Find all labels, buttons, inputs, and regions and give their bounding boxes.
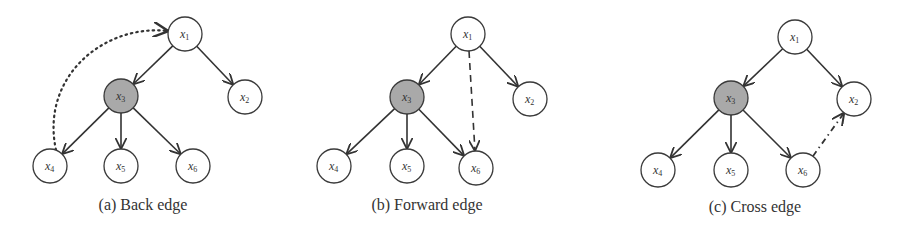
tree-edge-x3-x6 xyxy=(743,110,790,157)
tree-edge-x1-x2 xyxy=(807,49,842,86)
tree-edge-x1-x3 xyxy=(134,46,173,84)
node-x3: x3 xyxy=(104,79,138,113)
node-x1: x1 xyxy=(778,20,812,54)
node-x1: x1 xyxy=(168,17,202,51)
tree-edge-x3-x4 xyxy=(671,110,719,157)
node-x5: x5 xyxy=(104,149,138,183)
tree-edge-x3-x4 xyxy=(347,109,395,154)
tree-edge-x1-x2 xyxy=(197,46,233,84)
node-x1: x1 xyxy=(451,17,485,51)
node-x2: x2 xyxy=(513,82,547,116)
node-x6: x6 xyxy=(176,149,210,183)
node-x4: x4 xyxy=(317,149,351,183)
node-x5: x5 xyxy=(714,153,748,187)
cross-edge-x6-x2 xyxy=(813,114,844,157)
node-x3: x3 xyxy=(714,81,748,115)
node-x2: x2 xyxy=(837,82,871,116)
forward-edge-x1-x6 xyxy=(469,51,475,150)
caption-b: (b) Forward edge xyxy=(371,196,482,214)
tree-edge-x3-x6 xyxy=(133,108,180,154)
edges xyxy=(347,46,517,155)
edges xyxy=(54,30,233,153)
panel-c: x1x2x3x4x5x6(c) Cross edge xyxy=(641,20,871,216)
tree-edge-x3-x4 xyxy=(63,108,109,153)
tree-edge-x1-x2 xyxy=(480,46,518,86)
dfs-edge-types-figure: x1x2x3x4x5x6(a) Back edgex1x2x3x4x5x6(b)… xyxy=(0,0,914,238)
node-x4: x4 xyxy=(641,153,675,187)
node-x3: x3 xyxy=(390,80,424,114)
node-x6: x6 xyxy=(459,151,493,185)
node-x2: x2 xyxy=(228,80,262,114)
caption-a: (a) Back edge xyxy=(99,196,188,214)
node-x5: x5 xyxy=(390,149,424,183)
tree-edge-x1-x3 xyxy=(744,49,783,86)
panel-a: x1x2x3x4x5x6(a) Back edge xyxy=(33,17,262,214)
tree-edge-x3-x6 xyxy=(419,109,464,155)
panel-b: x1x2x3x4x5x6(b) Forward edge xyxy=(317,17,547,214)
node-x4: x4 xyxy=(33,149,67,183)
edges xyxy=(671,49,844,158)
node-x6: x6 xyxy=(786,153,820,187)
tree-edge-x1-x3 xyxy=(420,46,457,84)
caption-c: (c) Cross edge xyxy=(709,198,801,216)
